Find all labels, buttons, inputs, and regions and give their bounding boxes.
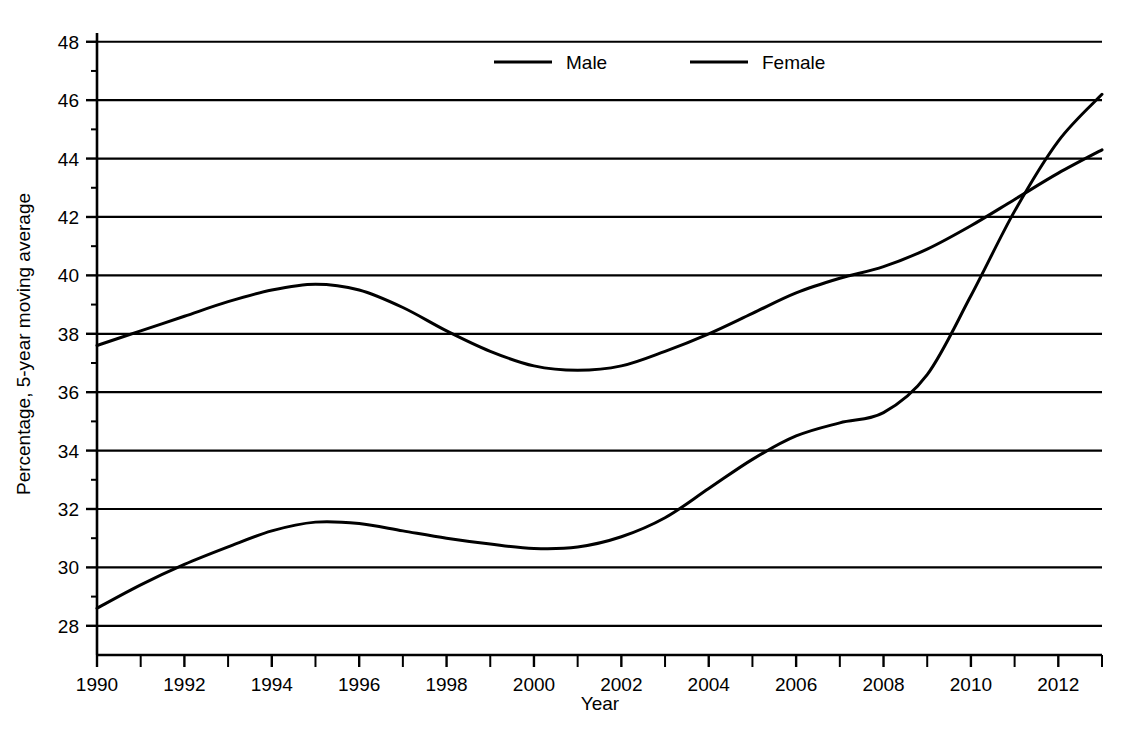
y-axis-title: Percentage, 5-year moving average <box>13 193 34 495</box>
x-tick-label: 1994 <box>251 674 294 695</box>
x-tick-label: 1990 <box>76 674 118 695</box>
series-line-male <box>97 150 1102 370</box>
legend-label-male: Male <box>566 52 607 73</box>
x-tick-label: 1996 <box>338 674 380 695</box>
y-tick-label: 44 <box>58 149 80 170</box>
x-axis-title: Year <box>581 693 620 714</box>
x-tick-label: 2000 <box>513 674 555 695</box>
data-series <box>97 94 1102 608</box>
y-tick-label: 32 <box>58 499 79 520</box>
x-tick-label: 2012 <box>1037 674 1079 695</box>
x-tick-label: 2006 <box>775 674 817 695</box>
x-tick-label: 2004 <box>688 674 731 695</box>
x-tick-label: 1998 <box>425 674 467 695</box>
x-tick-label: 2002 <box>600 674 642 695</box>
y-tick-label: 46 <box>58 90 79 111</box>
series-line-female <box>97 94 1102 608</box>
legend: MaleFemale <box>494 52 825 73</box>
x-axis-tick-labels: 1990199219941996199820002002200420062008… <box>76 674 1080 695</box>
y-tick-label: 42 <box>58 207 79 228</box>
x-tick-label: 2010 <box>950 674 992 695</box>
y-tick-label: 48 <box>58 32 79 53</box>
y-tick-label: 40 <box>58 265 79 286</box>
chart-container: 2830323436384042444648 19901992199419961… <box>0 0 1125 737</box>
line-chart: 2830323436384042444648 19901992199419961… <box>0 0 1125 737</box>
y-tick-label: 38 <box>58 324 79 345</box>
x-tick-label: 1992 <box>163 674 205 695</box>
y-tick-label: 36 <box>58 382 79 403</box>
y-tick-label: 30 <box>58 557 79 578</box>
y-tick-label: 28 <box>58 616 79 637</box>
y-axis <box>86 33 97 655</box>
x-tick-label: 2008 <box>862 674 904 695</box>
legend-label-female: Female <box>762 52 825 73</box>
x-axis <box>97 641 1102 667</box>
y-axis-tick-labels: 2830323436384042444648 <box>58 32 80 637</box>
y-tick-label: 34 <box>58 441 80 462</box>
